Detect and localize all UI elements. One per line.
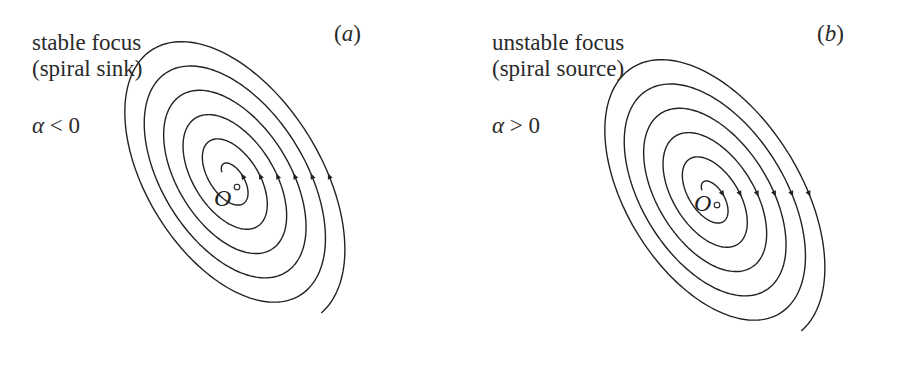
panel-stable-focus: stable focus (spiral sink) α < 0 (a) O — [0, 0, 460, 386]
equilibrium-point-icon — [714, 202, 720, 208]
equilibrium-point-icon — [234, 184, 240, 190]
panel-b-title: unstable focus — [492, 30, 624, 56]
panel-b-condition: α > 0 — [492, 113, 540, 139]
panel-a-title: stable focus — [32, 30, 143, 56]
panel-b-subtitle: (spiral source) — [492, 56, 624, 82]
panel-b-tag: (b) — [817, 21, 844, 47]
panel-b-description: unstable focus (spiral source) — [492, 30, 624, 82]
panel-a-tag: (a) — [334, 21, 361, 47]
panel-a-description: stable focus (spiral sink) — [32, 30, 143, 82]
alpha-symbol: α — [492, 113, 504, 138]
panel-a-subtitle: (spiral sink) — [32, 56, 143, 82]
panel-b-origin-label: O — [694, 190, 711, 217]
panel-a-inequality: < 0 — [44, 113, 80, 138]
panel-b-inequality: > 0 — [504, 113, 540, 138]
panel-a-origin-label: O — [214, 185, 231, 212]
panel-unstable-focus: unstable focus (spiral source) α > 0 (b)… — [460, 0, 921, 386]
panel-a-condition: α < 0 — [32, 113, 80, 139]
alpha-symbol: α — [32, 113, 44, 138]
